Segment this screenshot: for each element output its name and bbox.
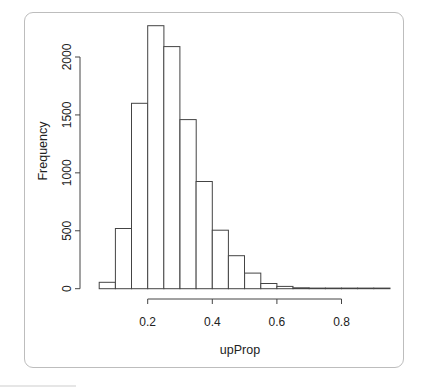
histogram-bar [180, 120, 196, 289]
histogram-bar [325, 288, 341, 289]
histogram-bar [99, 282, 115, 288]
x-axis-title: upProp [220, 343, 260, 357]
x-tick-label: 0.2 [139, 315, 156, 329]
histogram-bar [164, 47, 180, 289]
y-tick-label: 0 [60, 285, 74, 292]
histogram-bar [115, 229, 131, 289]
x-axis: 0.20.40.60.8 [139, 299, 350, 329]
y-tick-label: 1500 [60, 101, 74, 128]
histogram-bar [293, 288, 309, 289]
histogram-bar [132, 103, 148, 288]
histogram-bar [374, 288, 390, 289]
histogram-bar [261, 284, 277, 289]
y-tick-label: 500 [60, 220, 74, 240]
x-tick-label: 0.8 [333, 315, 350, 329]
histogram-bars [99, 26, 390, 289]
histogram-bar [358, 288, 374, 289]
y-tick-label: 1000 [60, 159, 74, 186]
y-axis-title: Frequency [36, 121, 50, 181]
x-tick-label: 0.4 [204, 315, 221, 329]
histogram-bar [196, 182, 212, 289]
histogram-bar [309, 288, 325, 289]
histogram-bar [245, 273, 261, 289]
y-axis: 0500100015002000 [60, 43, 80, 292]
histogram-bar [277, 286, 293, 288]
histogram-bar [148, 26, 164, 289]
x-tick-label: 0.6 [269, 315, 286, 329]
histogram-bar [228, 256, 244, 289]
histogram-chart: 0500100015002000 0.20.40.60.8 Frequency … [0, 0, 425, 388]
histogram-bar [212, 230, 228, 289]
y-tick-label: 2000 [60, 43, 74, 70]
histogram-bar [342, 288, 358, 289]
